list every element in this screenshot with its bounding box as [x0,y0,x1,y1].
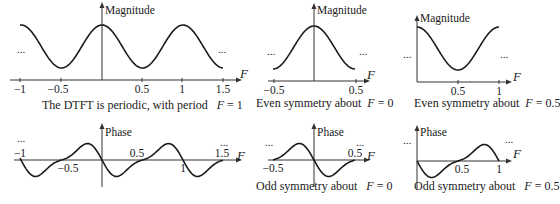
ylabel-phase-periodic: Phase [105,127,132,139]
caption-text: Odd symmetry about [256,179,357,193]
xlabel-f-phase-odd-05: F [513,147,521,160]
ellipsis-right-phase-odd-05: ... [505,134,513,145]
caption-mag-even-0: Even symmetry about F = 0 [256,97,393,109]
ellipsis-left-phase-periodic: ... [17,133,25,144]
xlabel-f-mag-even-05: F [513,70,521,83]
caption-mag-even-05: Even symmetry about F = 0.5 [414,97,560,109]
xlabel-f-mag-periodic: F [240,67,248,80]
ellipsis-left-phase-odd-05: ... [403,135,411,146]
tick-label: 1.5 [216,84,230,96]
caption-value: = 0 [378,96,394,110]
ellipsis-right-mag-even-0: ... [359,46,367,57]
ylabel-magnitude-periodic: Magnitude [105,5,155,17]
caption-var: F [525,96,532,110]
caption-text: Even symmetry about [256,96,361,110]
caption-value: = 0.5 [535,179,560,193]
ellipsis-left-phase-odd-0: ... [265,137,273,148]
caption-value: = 0.5 [536,96,560,110]
caption-var: F [366,179,373,193]
caption-var: F [217,98,224,112]
caption-phase-odd-05: Odd symmetry about F = 0.5 [414,180,559,192]
tick-label: 1 [496,164,502,176]
caption-phase-odd-0: Odd symmetry about F = 0 [256,180,392,192]
tick-label: 0.5 [455,164,469,176]
tick-label: 1.5 [215,148,229,160]
tick-label: −1 [14,148,26,160]
tick-label: −0.5 [48,84,69,96]
tick-label: 1 [180,163,186,175]
ylabel-phase-odd-05: Phase [420,127,447,139]
tick-label: 0.5 [135,84,149,96]
xlabel-f-phase-odd-0: F [367,149,375,162]
ellipsis-right-mag-periodic: ... [218,44,226,55]
xlabel-f-phase-periodic: F [237,149,245,162]
tick-label: −0.5 [58,163,79,175]
ylabel-magnitude-even-05: Magnitude [420,13,470,25]
tick-label: 1 [179,84,185,96]
caption-text: Even symmetry about [414,96,519,110]
caption-var: F [524,179,531,193]
ellipsis-left-mag-periodic: ... [17,44,25,55]
magnitude-curve-even-05 [417,27,499,70]
tick-label: 0.5 [348,148,362,160]
tick-label: −0.5 [264,85,285,97]
caption-text: Odd symmetry about [414,179,515,193]
ellipsis-right-mag-even-05: ... [500,49,508,60]
caption-mag-periodic: The DTFT is periodic, with period F = 1 [42,99,243,111]
ylabel-phase-odd-0: Phase [317,127,344,139]
tick-label: −1 [14,84,26,96]
caption-value: = 0 [377,179,393,193]
caption-var: F [367,96,374,110]
caption-value: = 1 [227,98,243,112]
magnitude-curve-periodic [20,25,223,68]
panel-mag-even-05-axes [415,15,513,85]
ylabel-magnitude-even-0: Magnitude [317,5,367,17]
xlabel-f-mag-even-0: F [367,68,375,81]
tick-label: 0.5 [349,85,363,97]
tick-label: −0.5 [263,163,284,175]
tick-label: 0.5 [130,148,144,160]
ellipsis-left-mag-even-05: ... [403,49,411,60]
ellipsis-left-mag-even-0: ... [267,46,275,57]
caption-text: The DTFT is periodic, with period [42,98,208,112]
